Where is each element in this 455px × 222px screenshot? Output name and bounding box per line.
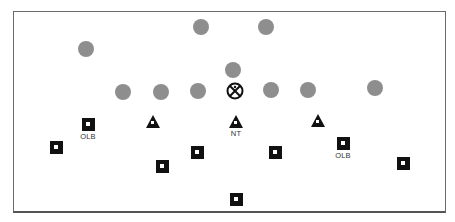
offense-player-circle [190, 83, 206, 99]
defender-square-icon [50, 141, 63, 154]
offense-player-circle [78, 41, 94, 57]
offense-player-circle [153, 84, 169, 100]
field-frame [13, 11, 446, 213]
label-olb-right: OLB [335, 151, 351, 160]
defender-square-icon [156, 160, 169, 173]
defender-square-icon [397, 157, 410, 170]
defender-triangle-icon [229, 115, 243, 128]
offense-player-circle [193, 19, 209, 35]
offense-player-circle [115, 84, 131, 100]
offense-player-circle [258, 19, 274, 35]
defender-square-icon [230, 193, 243, 206]
defender-square-icon [82, 118, 95, 131]
label-olb-left: OLB [80, 132, 96, 141]
offense-player-circle [367, 80, 383, 96]
defender-square-icon [337, 137, 350, 150]
defender-square-icon [269, 146, 282, 159]
defender-triangle-icon [146, 115, 160, 128]
defender-square-icon [191, 146, 204, 159]
offense-player-circle [263, 82, 279, 98]
label-nt: NT [231, 129, 241, 138]
offense-player-circle [225, 62, 241, 78]
center-circle-x-icon [226, 82, 244, 100]
defender-triangle-icon [311, 114, 325, 127]
offense-player-circle [300, 82, 316, 98]
